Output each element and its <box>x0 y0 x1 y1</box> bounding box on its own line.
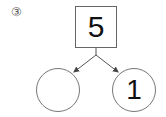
whole-value: 5 <box>75 6 117 48</box>
left-part-value[interactable] <box>36 68 80 112</box>
right-part-value: 1 <box>112 68 156 112</box>
